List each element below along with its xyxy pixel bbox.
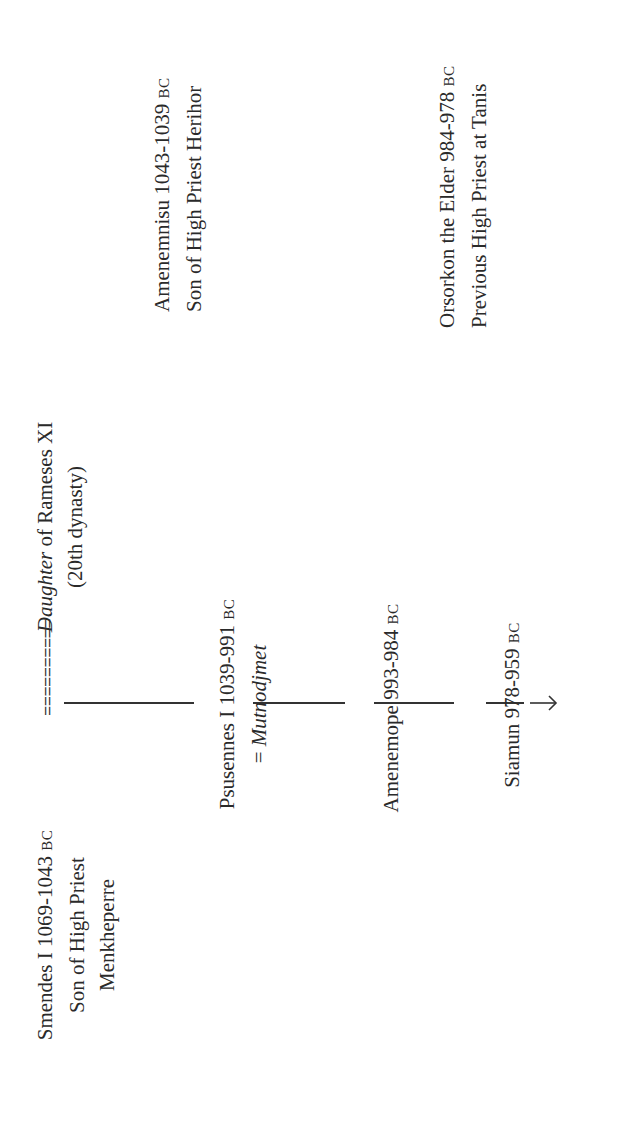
- siamun-name: Siamun 978-959 BC: [497, 600, 529, 810]
- right-arrow-icon: [530, 695, 558, 711]
- amenemnisu-name: Amenemnisu 1043-1039 BC: [147, 12, 179, 312]
- amenemnisu-parentage: Son of High Priest Herihor: [179, 12, 209, 312]
- psusennes-name: Psusennes I 1039-991 BC: [212, 570, 244, 838]
- psusennes-consort: = Mutnodjmet: [244, 570, 274, 838]
- spouse-dynasty: (20th dynasty): [60, 377, 90, 677]
- smendes-parentage: Son of High Priest: [62, 770, 92, 1100]
- smendes-name: Smendes I 1069-1043 BC: [30, 770, 62, 1100]
- orsorkon-name: Orsorkon the Elder 984-978 BC: [432, 8, 464, 328]
- orsorkon-note: Previous High Priest at Tanis: [464, 8, 494, 328]
- orsorkon-entry: Orsorkon the Elder 984-978 BC Previous H…: [432, 8, 494, 328]
- amenemnisu-entry: Amenemnisu 1043-1039 BC Son of High Prie…: [147, 12, 209, 312]
- succession-line-segment-1: [64, 702, 194, 704]
- smendes-entry: Smendes I 1069-1043 BC Son of High Pries…: [30, 770, 122, 1100]
- siamun-entry: Siamun 978-959 BC: [497, 600, 529, 810]
- amenemope-name: Amenemope 993-984 BC: [376, 574, 408, 842]
- amenemope-entry: Amenemope 993-984 BC: [376, 574, 408, 842]
- psusennes-entry: Psusennes I 1039-991 BC = Mutnodjmet: [212, 570, 274, 838]
- spouse-entry: Daughter of Rameses XI (20th dynasty): [30, 377, 90, 677]
- smendes-parentage-name: Menkheperre: [92, 770, 122, 1100]
- spouse-name: Daughter of Rameses XI: [30, 377, 60, 677]
